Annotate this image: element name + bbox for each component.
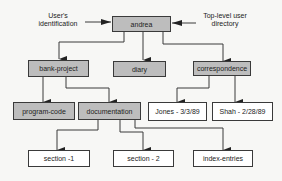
node-label: Jones - 3/3/89 [155, 108, 199, 115]
node-label: Shah - 2/28/89 [220, 108, 266, 115]
annotation-line: User's [33, 12, 83, 20]
node-program-code: program-code [13, 102, 75, 120]
node-shah: Shah - 2/28/89 [212, 102, 273, 121]
node-diary: diary [113, 61, 166, 77]
node-correspondence: correspondence [193, 61, 251, 76]
node-label: index-entries [203, 155, 243, 162]
node-label: program-code [22, 108, 66, 115]
node-label: diary [132, 66, 147, 73]
annotation-line: directory [197, 20, 253, 28]
node-label: section -1 [44, 155, 74, 162]
node-bank-project: bank-project [28, 60, 89, 77]
annotation-line: identification [33, 20, 83, 28]
node-andrea: andrea [112, 16, 171, 32]
annotation-line: Top-level user [197, 12, 253, 20]
node-jones: Jones - 3/3/89 [148, 102, 207, 121]
user-identification-annotation: User's identification [33, 12, 83, 28]
node-label: section - 2 [127, 155, 159, 162]
node-label: andrea [131, 21, 153, 28]
node-section-2: section - 2 [113, 150, 174, 167]
node-index-entries: index-entries [193, 150, 253, 167]
node-label: documentation [87, 108, 133, 115]
node-label: bank-project [39, 65, 78, 72]
directory-tree-diagram: User's identification Top-level user dir… [0, 0, 282, 181]
node-label: correspondence [197, 65, 247, 72]
node-documentation: documentation [78, 102, 141, 120]
node-section-1: section -1 [28, 150, 90, 167]
top-level-directory-annotation: Top-level user directory [197, 12, 253, 28]
